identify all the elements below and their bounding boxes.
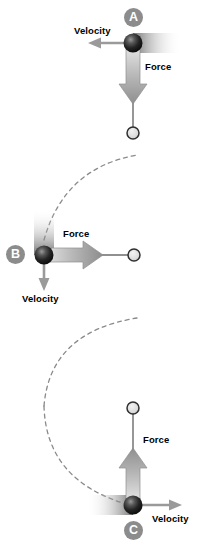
force-arrow-shape-c (119, 448, 147, 502)
pendulum-bob-a (124, 34, 143, 53)
pendulum-bob-b (35, 246, 54, 265)
trajectory-arc-a-to-b (44, 155, 137, 240)
trajectory-arc-b-to-c (44, 318, 137, 406)
pivot-circle-a (127, 127, 139, 139)
vector-diagram-svg (0, 0, 202, 549)
panel-b-group (34, 209, 140, 291)
trajectory-arc-group (44, 155, 137, 504)
force-arrow-shape-b (47, 241, 103, 269)
velocity-arrow-head-b (39, 278, 50, 291)
velocity-label-c: Velocity (152, 514, 189, 524)
physics-diagram-canvas: A B C Velocity Force Force Velocity Forc… (0, 0, 202, 549)
panel-badge-b: B (6, 245, 25, 264)
force-label-c: Force (143, 435, 169, 445)
panel-a-group (88, 33, 181, 139)
force-vector-c (119, 448, 147, 502)
force-vector-a (119, 46, 147, 104)
force-vector-b (47, 241, 103, 269)
velocity-label-a: Velocity (74, 26, 111, 36)
pendulum-bob-c (124, 496, 143, 515)
pivot-circle-c (127, 402, 139, 414)
velocity-arrow-head-c (169, 500, 182, 511)
velocity-arrow-head-a (88, 38, 101, 49)
panel-c-group (87, 402, 182, 515)
force-label-b: Force (63, 229, 89, 239)
force-label-a: Force (145, 62, 171, 72)
pivot-circle-b (128, 249, 140, 261)
panel-badge-a: A (124, 8, 143, 27)
trajectory-arc-c-lower (44, 406, 126, 504)
panel-badge-c: C (124, 521, 143, 540)
velocity-label-b: Velocity (22, 294, 59, 304)
force-arrow-shape-a (119, 46, 147, 104)
